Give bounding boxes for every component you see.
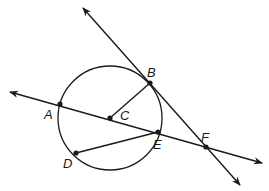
label-a: A <box>44 108 53 121</box>
point-b <box>147 80 152 85</box>
line-AF <box>10 92 262 163</box>
diagram-svg <box>0 0 269 191</box>
line-BF <box>83 8 240 185</box>
label-c: C <box>120 109 129 122</box>
point-d <box>73 150 78 155</box>
label-e: E <box>153 138 162 151</box>
label-b: B <box>147 66 156 79</box>
point-c <box>107 115 112 120</box>
point-a <box>57 101 62 106</box>
segment-CB <box>110 83 150 118</box>
label-d: D <box>63 157 72 170</box>
geometry-diagram: ABCDEF <box>0 0 269 191</box>
segment-DE <box>76 132 158 153</box>
point-e <box>155 129 160 134</box>
label-f: F <box>201 131 209 144</box>
point-f <box>203 144 208 149</box>
